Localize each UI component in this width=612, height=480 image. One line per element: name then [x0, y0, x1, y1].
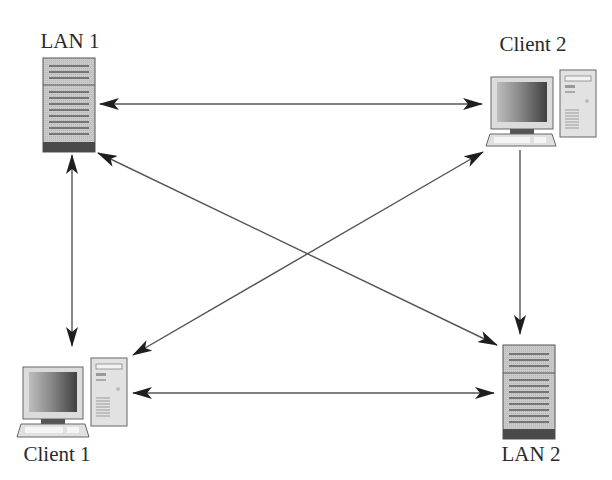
- server-icon-lan1[interactable]: [43, 58, 95, 152]
- monitor-icon: [17, 367, 89, 437]
- tower-icon: [91, 358, 127, 426]
- monitor-icon: [486, 77, 556, 146]
- diagram-canvas: [0, 0, 612, 480]
- edge-client2-client1: [133, 152, 483, 355]
- server-icon-lan2[interactable]: [503, 345, 555, 439]
- node-label-client2: Client 2: [499, 34, 566, 55]
- workstation-icon-client2[interactable]: [486, 70, 596, 146]
- edges: [72, 104, 520, 393]
- node-label-lan1: LAN 1: [41, 31, 100, 52]
- node-label-client1: Client 1: [23, 444, 90, 465]
- tower-icon: [560, 70, 596, 137]
- network-diagram: LAN 1 Client 2 Client 1 LAN 2: [0, 0, 612, 480]
- node-label-lan2: LAN 2: [502, 444, 561, 465]
- edge-lan1-lan2: [98, 153, 497, 345]
- workstation-icon-client1[interactable]: [17, 358, 127, 437]
